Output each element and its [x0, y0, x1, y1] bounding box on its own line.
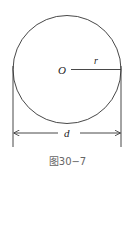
radius-label: r	[94, 55, 98, 66]
diameter-label: d	[64, 127, 70, 139]
figure-caption: 图30−7	[0, 153, 135, 168]
center-label: O	[58, 64, 66, 76]
